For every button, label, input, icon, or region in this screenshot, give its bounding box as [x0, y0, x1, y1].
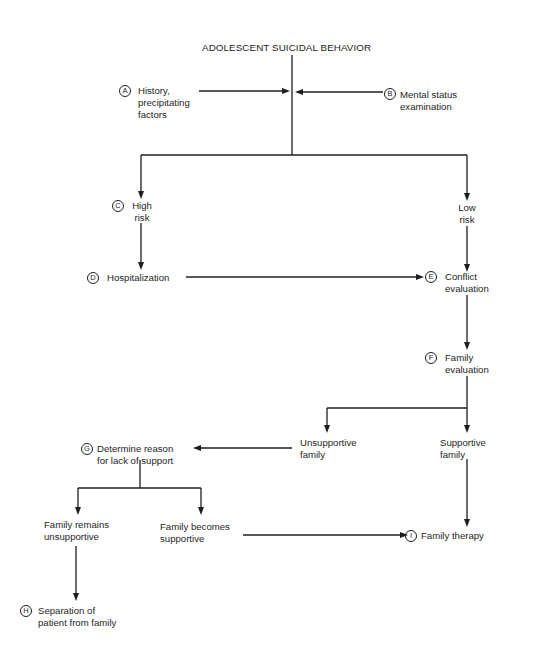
- arrow-head-icon: [75, 507, 81, 515]
- node-text: unsupportive: [44, 531, 109, 543]
- arrow-head-icon: [416, 274, 424, 280]
- badge-a-icon: A: [119, 85, 131, 97]
- node-text: Low: [453, 202, 481, 214]
- node-text: Unsupportive: [300, 437, 357, 449]
- arrow-head-icon: [464, 425, 470, 433]
- node-text: risk: [453, 214, 481, 226]
- node-family-becomes-supportive: Family becomes supportive: [160, 521, 230, 545]
- node-text: risk: [128, 212, 156, 224]
- node-text: examination: [400, 101, 457, 113]
- arrow-head-icon: [282, 88, 290, 94]
- node-text: High: [128, 200, 156, 212]
- badge-f-icon: F: [425, 352, 437, 364]
- badge-d-icon: D: [87, 272, 99, 284]
- node-high-risk: High risk: [128, 200, 156, 224]
- node-conflict-evaluation: Conflict evaluation: [445, 271, 489, 295]
- badge-i-icon: I: [405, 530, 417, 542]
- arrow-head-icon: [138, 191, 144, 199]
- arrow-head-icon: [73, 593, 79, 601]
- node-text: Mental status: [400, 89, 457, 101]
- arrow-head-icon: [464, 193, 470, 201]
- arrow-head-icon: [295, 89, 303, 95]
- badge-c-icon: C: [112, 200, 124, 212]
- arrow-head-icon: [193, 445, 201, 451]
- diagram-title: ADOLESCENT SUICIDAL BEHAVIOR: [202, 42, 371, 53]
- node-text: Supportive: [440, 437, 486, 449]
- node-text: evaluation: [445, 283, 489, 295]
- node-text: Determine reason: [97, 443, 173, 455]
- node-text: precipitating: [138, 97, 190, 109]
- node-family-remains-unsupportive: Family remains unsupportive: [44, 519, 109, 543]
- node-separation: Separation of patient from family: [38, 605, 116, 629]
- arrow-head-icon: [464, 519, 470, 527]
- node-text: patient from family: [38, 617, 116, 629]
- arrow-head-icon: [464, 342, 470, 350]
- arrow-head-icon: [198, 507, 204, 515]
- node-determine-reason: Determine reason for lack of support: [97, 443, 173, 467]
- node-text: Separation of: [38, 605, 116, 617]
- node-text: for lack of support: [97, 455, 173, 467]
- node-low-risk: Low risk: [453, 202, 481, 226]
- node-family-evaluation: Family evaluation: [445, 352, 489, 376]
- node-history: History, precipitating factors: [138, 85, 190, 121]
- badge-h-icon: H: [20, 605, 32, 617]
- node-text: factors: [138, 109, 190, 121]
- node-text: Family: [445, 352, 489, 364]
- flowchart: ADOLESCENT SUICIDAL BEHAVIOR A History, …: [0, 0, 533, 654]
- node-text: supportive: [160, 533, 230, 545]
- badge-g-icon: G: [81, 443, 93, 455]
- node-text: Family remains: [44, 519, 109, 531]
- node-text: Conflict: [445, 271, 489, 283]
- arrow-head-icon: [324, 425, 330, 433]
- node-text: family: [300, 449, 357, 461]
- node-mental-status: Mental status examination: [400, 89, 457, 113]
- node-family-therapy: Family therapy: [421, 530, 484, 542]
- node-text: family: [440, 449, 486, 461]
- node-text: Family therapy: [421, 530, 484, 542]
- badge-b-icon: B: [384, 88, 396, 100]
- badge-e-icon: E: [425, 271, 437, 283]
- node-text: evaluation: [445, 364, 489, 376]
- node-text: Hospitalization: [107, 272, 169, 284]
- node-text: History,: [138, 85, 190, 97]
- node-unsupportive-family: Unsupportive family: [300, 437, 357, 461]
- node-supportive-family: Supportive family: [440, 437, 486, 461]
- arrow-head-icon: [138, 262, 144, 270]
- node-hospitalization: Hospitalization: [107, 272, 169, 284]
- node-text: Family becomes: [160, 521, 230, 533]
